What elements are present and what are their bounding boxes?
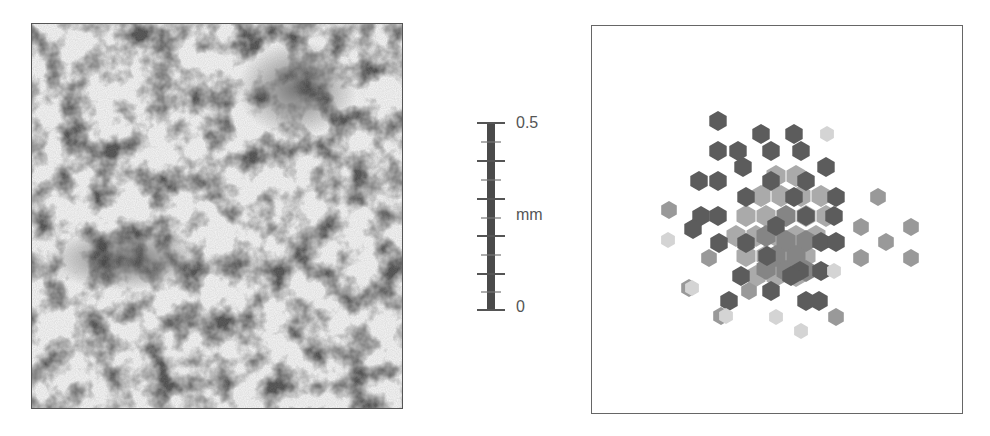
texture-image-panel xyxy=(31,23,403,409)
hex-map-panel xyxy=(591,25,963,414)
scale-unit-label: mm xyxy=(516,206,543,224)
scale-bar: 0.5 mm 0 xyxy=(473,120,553,320)
hex-map xyxy=(592,26,962,412)
texture-image xyxy=(32,24,403,409)
scale-bar-ruler xyxy=(473,120,513,320)
scale-min-label: 0 xyxy=(516,298,525,316)
scale-max-label: 0.5 xyxy=(516,114,538,132)
